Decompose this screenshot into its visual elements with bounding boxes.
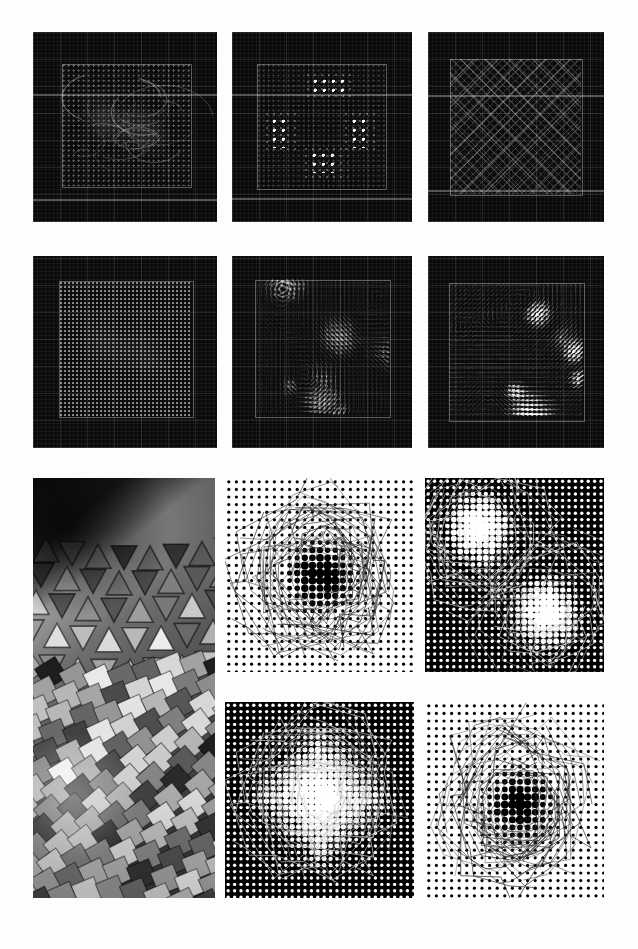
halo-dot-cluster-0	[306, 73, 352, 102]
halftone-dot-grid	[425, 478, 604, 672]
figure-panel-r4c3	[425, 702, 604, 898]
halo-dot-cluster-1	[265, 112, 297, 154]
faceted-surface-photograph	[33, 478, 215, 898]
arrow-glyph-field	[232, 256, 412, 448]
streak-overlay	[33, 32, 217, 222]
figure-panel-r1c1	[33, 32, 217, 222]
horizontal-band-1	[232, 198, 412, 200]
figure-panel-r2c1	[33, 256, 217, 448]
halftone-dot-grid	[425, 702, 604, 898]
arrow-glyph-field	[428, 256, 604, 448]
figure-root	[0, 0, 638, 949]
figure-panel-r3c2	[225, 478, 414, 672]
figure-panel-r1c3	[428, 32, 604, 222]
coarse-crosshatch-layer	[450, 59, 581, 194]
figure-panel-r4c2	[225, 702, 414, 898]
halftone-dot-grid	[225, 478, 414, 672]
figure-panel-r1c2	[232, 32, 412, 222]
halftone-dot-grid	[225, 702, 414, 898]
figure-panel-r2c3	[428, 256, 604, 448]
halo-dot-cluster-2	[344, 112, 376, 154]
figure-panel-r3c3	[425, 478, 604, 672]
defect-texture-layer	[59, 281, 192, 416]
figure-panel-r3c1	[33, 478, 215, 898]
figure-panel-r2c2	[232, 256, 412, 448]
halo-dot-cluster-3	[304, 147, 348, 179]
